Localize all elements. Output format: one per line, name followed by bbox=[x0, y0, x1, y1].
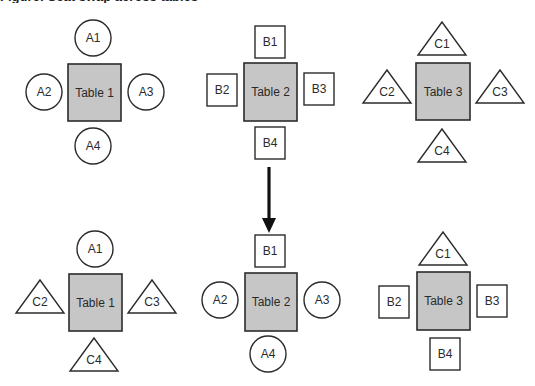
seat-c3-triangle: C3 bbox=[476, 70, 524, 103]
seat-a3-circle: A3 bbox=[304, 282, 340, 318]
seat-label: A2 bbox=[213, 293, 228, 307]
before-arrangement: Table 1A1A2A3A4Table 2B1B2B3B4Table 3C1C… bbox=[26, 20, 524, 164]
table-label: Table 2 bbox=[252, 295, 291, 309]
seat-label: C2 bbox=[32, 295, 48, 309]
seat-label: A1 bbox=[88, 242, 103, 256]
seat-label: B1 bbox=[263, 35, 278, 49]
table-label: Table 3 bbox=[424, 85, 463, 99]
table-label: Table 3 bbox=[424, 294, 463, 308]
seat-c4-triangle: C4 bbox=[418, 129, 466, 162]
seat-label: C4 bbox=[434, 144, 450, 158]
seat-label: C1 bbox=[434, 37, 450, 51]
seat-b1-square: B1 bbox=[255, 235, 285, 267]
seat-a4-circle: A4 bbox=[75, 128, 111, 164]
seat-label: C4 bbox=[86, 353, 102, 367]
seat-label: A3 bbox=[139, 85, 154, 99]
seat-c2-triangle: C2 bbox=[16, 280, 64, 313]
seat-label: B2 bbox=[387, 295, 402, 309]
seat-label: B4 bbox=[263, 136, 278, 150]
seat-c3-triangle: C3 bbox=[128, 280, 176, 313]
seat-b3-square: B3 bbox=[477, 285, 507, 317]
table-label: Table 1 bbox=[75, 86, 114, 100]
seat-c1-triangle: C1 bbox=[418, 22, 466, 55]
seat-b3-square: B3 bbox=[304, 73, 334, 105]
table-group-2: Table 2B1B2B3B4 bbox=[207, 26, 334, 159]
seat-a2-circle: A2 bbox=[26, 74, 62, 110]
table-group-1: Table 1A1C2C3C4 bbox=[16, 231, 176, 371]
figure-caption: Figure: Seat swap across tables bbox=[0, 0, 535, 3]
table-group-1: Table 1A1A2A3A4 bbox=[26, 20, 164, 164]
seat-a3-circle: A3 bbox=[128, 74, 164, 110]
seat-a1-circle: A1 bbox=[75, 20, 111, 56]
diagram-canvas: Table 1A1A2A3A4Table 2B1B2B3B4Table 3C1C… bbox=[0, 0, 535, 386]
seat-label: C2 bbox=[379, 85, 395, 99]
seat-label: B1 bbox=[263, 244, 278, 258]
seat-a4-circle: A4 bbox=[250, 336, 286, 372]
seat-label: C3 bbox=[492, 85, 508, 99]
seat-label: A3 bbox=[315, 293, 330, 307]
seat-b4-square: B4 bbox=[255, 127, 285, 159]
seat-label: B4 bbox=[438, 347, 453, 361]
table-group-3: Table 3C1C2C3C4 bbox=[363, 22, 524, 162]
after-arrangement: Table 1A1C2C3C4Table 2B1A2A3A4Table 3C1B… bbox=[16, 231, 507, 372]
table-group-3: Table 3C1B2B3B4 bbox=[379, 232, 507, 370]
seat-b4-square: B4 bbox=[430, 338, 460, 370]
seat-a2-circle: A2 bbox=[202, 282, 238, 318]
seat-b1-square: B1 bbox=[255, 26, 285, 58]
seat-label: C1 bbox=[435, 247, 451, 261]
transition-arrow bbox=[262, 167, 276, 233]
seat-label: B2 bbox=[215, 83, 230, 97]
seat-label: C3 bbox=[144, 295, 160, 309]
arrow-down-icon bbox=[262, 218, 276, 233]
seat-label: A4 bbox=[86, 139, 101, 153]
seat-label: B3 bbox=[312, 82, 327, 96]
seat-c1-triangle: C1 bbox=[419, 232, 467, 265]
table-group-2: Table 2B1A2A3A4 bbox=[202, 235, 340, 372]
seat-label: B3 bbox=[485, 294, 500, 308]
seat-a1-circle: A1 bbox=[77, 231, 113, 267]
seat-label: A1 bbox=[86, 31, 101, 45]
seat-c4-triangle: C4 bbox=[70, 338, 118, 371]
seat-b2-square: B2 bbox=[379, 286, 409, 318]
seat-label: A2 bbox=[37, 85, 52, 99]
seat-c2-triangle: C2 bbox=[363, 70, 411, 103]
table-label: Table 1 bbox=[76, 296, 115, 310]
seat-b2-square: B2 bbox=[207, 74, 237, 106]
seating-diagram: Figure: Seat swap across tables Table 1A… bbox=[0, 0, 535, 386]
seat-label: A4 bbox=[261, 347, 276, 361]
table-label: Table 2 bbox=[251, 85, 290, 99]
